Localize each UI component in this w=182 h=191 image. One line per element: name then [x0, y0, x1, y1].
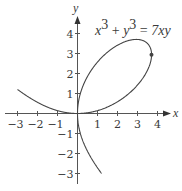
eq-equals: = [136, 23, 151, 38]
y-ticks: 4321−1−2−3 [57, 28, 80, 181]
y-axis-arrow-icon [75, 16, 81, 24]
x-axis-arrow-icon [163, 111, 171, 117]
y-tick-label: 4 [67, 28, 74, 41]
curve-loop [78, 39, 152, 113]
x-tick-label: 3 [134, 118, 141, 131]
x-tick-label: 4 [154, 118, 161, 131]
eq-exp-x: 3 [101, 17, 108, 32]
x-tick-label: 2 [114, 118, 121, 131]
folium-plot: x y −3−2−11234 4321−1−2−3 x3 + y3 = 7xy [0, 0, 182, 191]
eq-exp-y: 3 [129, 17, 136, 32]
x-tick-label: −3 [7, 118, 23, 131]
y-tick-label: 2 [67, 68, 74, 81]
equation-annotation: x3 + y3 = 7xy [94, 17, 171, 38]
eq-rhs: 7xy [151, 23, 171, 38]
y-axis-label: y [72, 1, 79, 15]
highlight-point [150, 53, 154, 57]
y-tick-label: −3 [57, 168, 73, 181]
x-axis-label: x [172, 106, 179, 120]
x-tick-label: 1 [94, 118, 101, 131]
y-tick-label: −1 [57, 128, 73, 141]
eq-plus: + [108, 23, 123, 38]
y-tick-label: 1 [67, 88, 74, 101]
x-tick-label: −2 [27, 118, 43, 131]
y-tick-label: 3 [67, 48, 74, 61]
y-tick-label: −2 [57, 148, 73, 161]
